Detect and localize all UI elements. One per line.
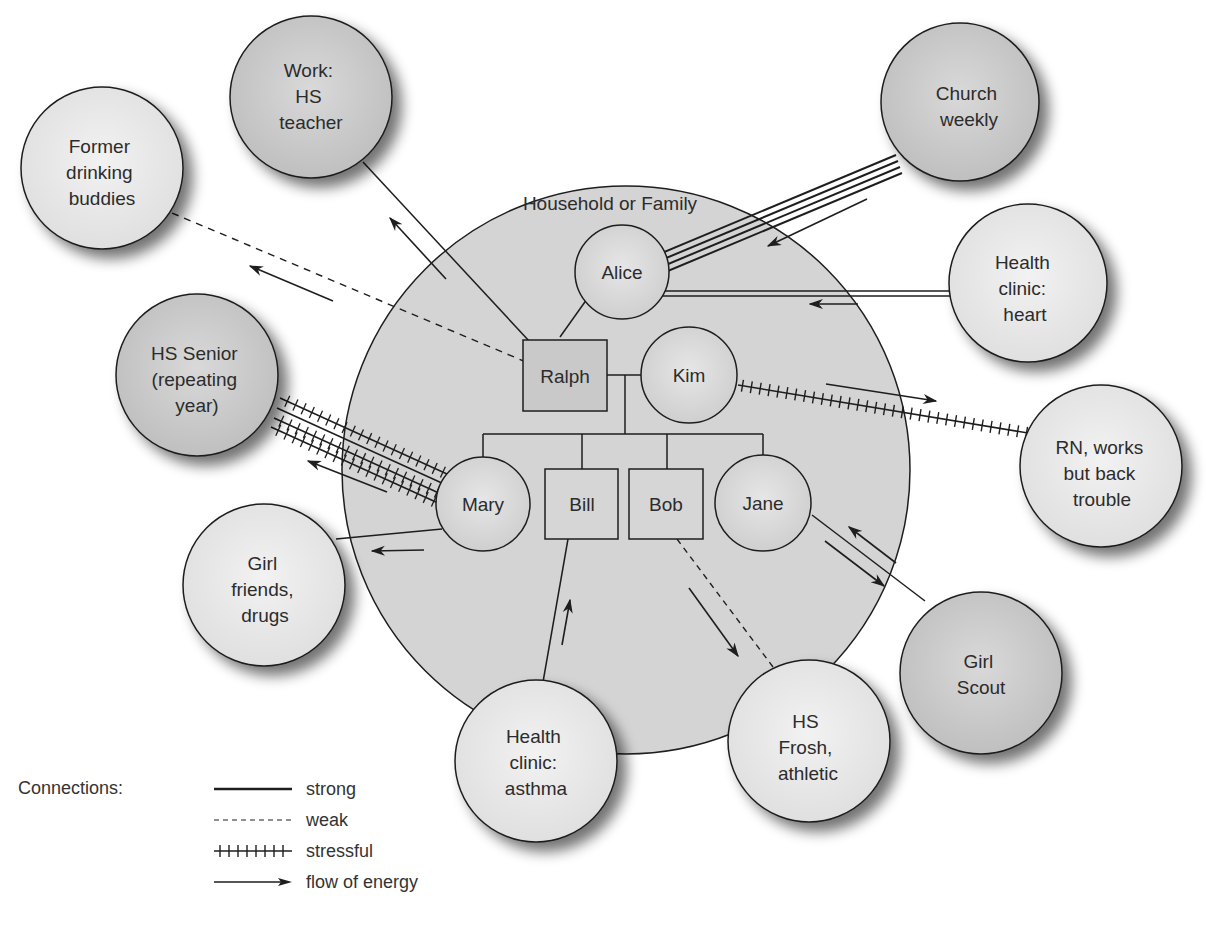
member-jane[interactable]: Jane bbox=[715, 455, 811, 551]
member-mary[interactable]: Mary bbox=[436, 457, 530, 551]
label-heart: Health clinic: heart bbox=[995, 252, 1055, 325]
svg-text:Mary: Mary bbox=[462, 494, 505, 515]
household-label: Household or Family bbox=[523, 193, 698, 214]
legend-stressful: stressful bbox=[214, 838, 373, 864]
legend-arrow: flow of energy bbox=[214, 869, 418, 895]
ecomap-diagram: Household or Family Alice Ralph Kim Mary… bbox=[0, 0, 1206, 925]
arrow-icon bbox=[390, 218, 446, 279]
legend-weak: weak bbox=[214, 807, 348, 833]
label-drinking: Former drinking buddies bbox=[66, 136, 138, 209]
system-scout[interactable] bbox=[900, 592, 1062, 754]
svg-text:Kim: Kim bbox=[673, 365, 706, 386]
arrow-icon bbox=[250, 266, 333, 301]
legend-title: Connections: bbox=[18, 778, 123, 799]
arrow-icon bbox=[214, 875, 292, 889]
arrow-icon bbox=[372, 550, 424, 551]
label-asthma: Health clinic: asthma bbox=[505, 726, 568, 799]
member-ralph[interactable]: Ralph bbox=[523, 340, 607, 411]
member-alice[interactable]: Alice bbox=[575, 225, 669, 319]
strong-line-icon bbox=[214, 782, 292, 796]
member-bill[interactable]: Bill bbox=[545, 469, 618, 539]
svg-text:Bob: Bob bbox=[649, 494, 683, 515]
svg-text:Ralph: Ralph bbox=[540, 366, 590, 387]
svg-text:Alice: Alice bbox=[601, 262, 642, 283]
member-kim[interactable]: Kim bbox=[641, 327, 737, 423]
stressful-line-icon bbox=[214, 844, 292, 858]
weak-line-icon bbox=[214, 813, 292, 827]
legend-strong: strong bbox=[214, 776, 356, 802]
svg-text:Bill: Bill bbox=[569, 494, 594, 515]
svg-text:Jane: Jane bbox=[742, 493, 783, 514]
member-bob[interactable]: Bob bbox=[629, 469, 703, 539]
